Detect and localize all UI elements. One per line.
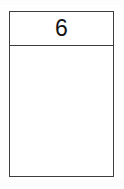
table-box: 6 xyxy=(9,11,114,177)
table-header-cell: 6 xyxy=(10,12,113,46)
scan-noise-bottom xyxy=(0,179,124,189)
table-body-cell xyxy=(10,46,113,175)
header-cell-value: 6 xyxy=(55,17,68,41)
scan-noise-top xyxy=(0,0,124,11)
page-canvas: 6 xyxy=(0,0,124,189)
